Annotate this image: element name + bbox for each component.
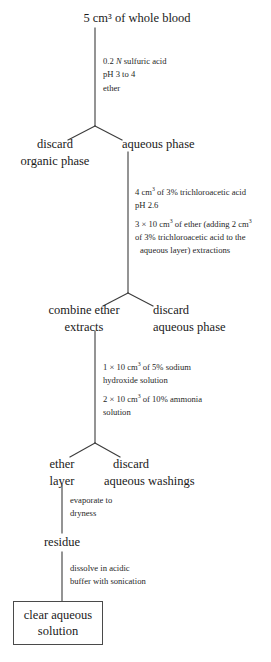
step-3-line-3: 2 × 10 cm3 of 10% ammonia <box>103 393 202 406</box>
node-ether-layer-line2: layer <box>50 473 75 490</box>
node-discard-aqueous-phase-line2: aqueous phase <box>153 319 226 336</box>
node-combine-ether-extracts-line1: combine ether <box>48 302 119 319</box>
step-annotation-2: 4 cm3 of 3% trichloroacetic acid pH 2.6 … <box>135 186 252 258</box>
node-discard-aqueous-washings-line2: aqueous washings <box>104 473 195 490</box>
step-2-line-4: of 3% trichloroacetic acid to the <box>135 231 252 244</box>
step-5-line-2: buffer with sonication <box>70 575 146 588</box>
node-discard-organic-phase: discard organic phase <box>21 136 90 169</box>
node-clear-aqueous-solution-line2: solution <box>24 623 92 639</box>
connector-fork2-right <box>128 293 153 306</box>
connector-fork3-right <box>95 443 120 457</box>
node-combine-ether-extracts-line2: extracts <box>48 319 119 336</box>
step-1-line-2: pH 3 to 4 <box>103 68 167 81</box>
step-4-line-2: dryness <box>70 507 112 520</box>
node-discard-aqueous-washings-line1: discard <box>104 456 195 473</box>
step-annotation-4: evaporate to dryness <box>70 494 112 521</box>
step-2-line-5: aqueous layer) extractions <box>135 244 252 257</box>
step-2-line-2: pH 2.6 <box>135 199 252 212</box>
step-1-line-1: 0.2 N sulfuric acid <box>103 55 167 68</box>
step-4-line-1: evaporate to <box>70 494 112 507</box>
node-start: 5 cm³ of whole blood <box>83 10 190 27</box>
step-3-line-1: 1 × 10 cm3 of 5% sodium <box>103 361 202 374</box>
step-3-line-4: solution <box>103 406 202 419</box>
connector-fork1-right <box>95 126 122 140</box>
step-2-line-1: 4 cm3 of 3% trichloroacetic acid <box>135 186 252 199</box>
node-clear-aqueous-solution: clear aqueous solution <box>13 601 103 645</box>
node-clear-aqueous-solution-line1: clear aqueous <box>24 607 92 623</box>
node-discard-aqueous-phase: discard aqueous phase <box>153 302 226 335</box>
node-discard-organic-phase-line2: organic phase <box>21 153 90 170</box>
step-annotation-5: dissolve in acidic buffer with sonicatio… <box>70 562 146 589</box>
node-aqueous-phase: aqueous phase <box>122 136 195 153</box>
node-ether-layer-line1: ether <box>50 456 75 473</box>
connector-fork3-left <box>70 443 95 457</box>
node-ether-layer: ether layer <box>50 456 75 489</box>
node-discard-organic-phase-line1: discard <box>21 136 90 153</box>
step-1-line-3: ether <box>103 82 167 95</box>
step-annotation-3: 1 × 10 cm3 of 5% sodium hydroxide soluti… <box>103 361 202 419</box>
node-residue: residue <box>44 534 80 551</box>
node-discard-aqueous-phase-line1: discard <box>153 302 226 319</box>
node-combine-ether-extracts: combine ether extracts <box>48 302 119 335</box>
node-discard-aqueous-washings: discard aqueous washings <box>104 456 195 489</box>
step-2-line-3: 3 × 10 cm3 of ether (adding 2 cm3 <box>135 218 252 231</box>
step-3-line-2: hydroxide solution <box>103 374 202 387</box>
step-annotation-1: 0.2 N sulfuric acid pH 3 to 4 ether <box>103 55 167 95</box>
step-5-line-1: dissolve in acidic <box>70 562 146 575</box>
